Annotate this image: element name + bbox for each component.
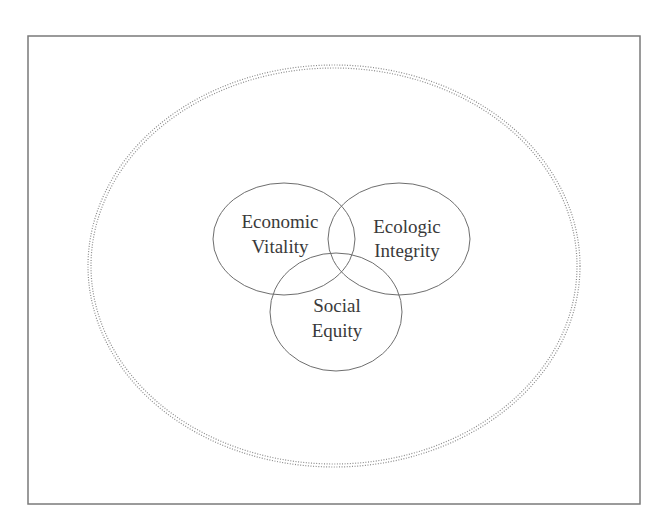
- ecologic-label-line1: Ecologic: [373, 216, 441, 237]
- outer-boundary-ring-inner: [91, 68, 577, 464]
- venn-circle-ecologic: Ecologic Integrity: [328, 183, 470, 295]
- sustainability-diagram: Economic Vitality Ecologic Integrity Soc…: [0, 0, 666, 531]
- venn-circle-economic: Economic Vitality: [213, 183, 355, 295]
- diagram-frame: [28, 36, 640, 504]
- outer-boundary-ring-outer: [88, 65, 580, 467]
- ecologic-circle: [328, 183, 470, 295]
- economic-label-line2: Vitality: [252, 236, 309, 257]
- social-label-line1: Social: [313, 295, 361, 316]
- outer-boundary: [88, 65, 580, 467]
- social-label-line2: Equity: [312, 320, 363, 341]
- venn-circle-social: Social Equity: [270, 253, 402, 371]
- ecologic-label-line2: Integrity: [374, 240, 440, 261]
- economic-label-line1: Economic: [241, 211, 318, 232]
